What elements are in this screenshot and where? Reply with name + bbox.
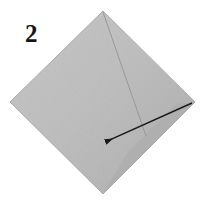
step-number-label: 2 [25, 21, 38, 46]
paper-sheet-group [10, 11, 195, 194]
origami-step-figure: 2 [0, 0, 207, 201]
